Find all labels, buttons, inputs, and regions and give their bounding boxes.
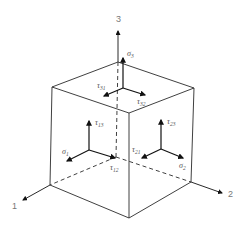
stress-cube-diagram: 3 1 2 σ3 τ31 τ32 τ13 σ1 τ12: [0, 0, 250, 229]
tau21-arrow: [142, 149, 161, 158]
axis-3: 3: [116, 14, 121, 62]
tau32-arrow: [123, 88, 145, 95]
tau12-arrow: [89, 150, 115, 158]
tau31-arrow: [104, 88, 123, 96]
axis-3-label: 3: [116, 14, 121, 24]
sigma1-arrow: [67, 150, 89, 161]
cube-visible-edges: [50, 62, 194, 218]
right-face-stresses: τ23 τ21 σ2: [132, 117, 186, 171]
tau31-label: τ31: [97, 81, 106, 91]
sigma2-arrow: [161, 149, 183, 158]
tau13-label: τ13: [95, 118, 104, 128]
sigma1-label: σ1: [62, 147, 69, 157]
left-face-stresses: τ13 σ1 τ12: [62, 118, 119, 173]
axis-2: 2: [191, 182, 233, 199]
tau21-label: τ21: [132, 145, 141, 155]
axis-1-label: 1: [12, 201, 17, 211]
sigma2-label: σ2: [179, 161, 186, 171]
tau23-label: τ23: [167, 117, 176, 127]
axis-2-label: 2: [228, 189, 233, 199]
sigma3-label: σ3: [127, 49, 134, 59]
top-face-stresses: σ3 τ31 τ32: [97, 49, 146, 107]
tau12-label: τ12: [110, 163, 119, 173]
axis-1: 1: [12, 185, 50, 211]
tau32-label: τ32: [137, 97, 146, 107]
